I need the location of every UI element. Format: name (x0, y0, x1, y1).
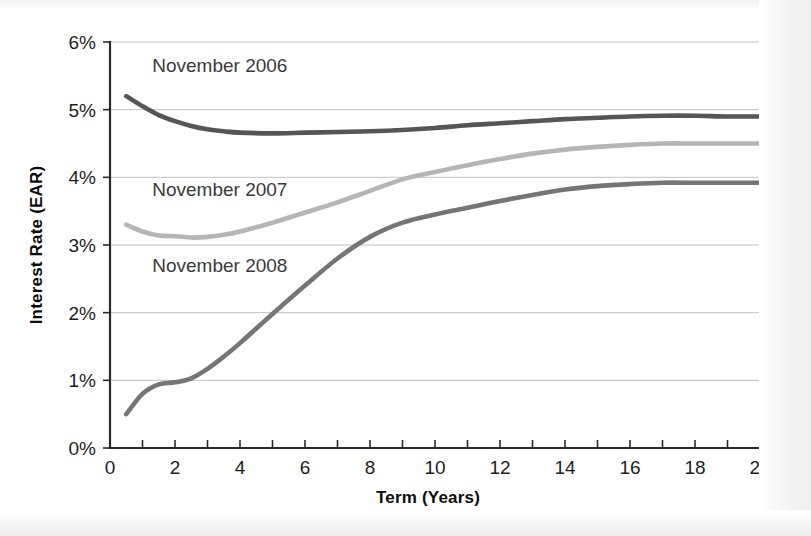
x-tick-labels: 02468101214161820 (105, 457, 771, 478)
yield-curve-chart: 0%1%2%3%4%5%6%02468101214161820Term (Yea… (0, 0, 811, 536)
x-tick-label-6: 6 (300, 457, 311, 478)
x-axis-title: Term (Years) (376, 488, 480, 507)
x-tick-label-4: 4 (235, 457, 246, 478)
y-tick-label-2: 2% (69, 303, 97, 324)
scan-edge-right (759, 0, 811, 536)
gridlines-group (110, 42, 760, 380)
series-label-2: November 2008 (152, 255, 287, 276)
x-tick-label-8: 8 (365, 457, 376, 478)
y-tick-label-0: 0% (69, 438, 97, 459)
series-line-2 (126, 183, 760, 415)
x-tick-label-12: 12 (489, 457, 510, 478)
x-tick-label-18: 18 (684, 457, 705, 478)
x-tick-label-16: 16 (619, 457, 640, 478)
x-tick-label-14: 14 (554, 457, 576, 478)
series-line-0 (126, 96, 760, 133)
y-tick-label-5: 5% (69, 100, 97, 121)
x-tick-label-0: 0 (105, 457, 116, 478)
series-label-0: November 2006 (152, 55, 287, 76)
chart-svg: 0%1%2%3%4%5%6%02468101214161820Term (Yea… (0, 0, 811, 536)
x-tick-label-10: 10 (424, 457, 445, 478)
y-tick-label-3: 3% (69, 235, 97, 256)
scan-edge-top (0, 0, 811, 10)
x-tick-label-2: 2 (170, 457, 181, 478)
y-tick-label-4: 4% (69, 167, 97, 188)
y-tick-label-1: 1% (69, 370, 97, 391)
page-background: 0%1%2%3%4%5%6%02468101214161820Term (Yea… (0, 0, 811, 536)
y-axis-title: Interest Rate (EAR) (27, 166, 46, 325)
series-label-1: November 2007 (152, 179, 287, 200)
scan-edge-bottom (0, 510, 811, 536)
y-tick-label-6: 6% (69, 32, 97, 53)
series-annotations: November 2006November 2007November 2008 (152, 55, 287, 276)
y-tick-labels: 0%1%2%3%4%5%6% (69, 32, 97, 459)
